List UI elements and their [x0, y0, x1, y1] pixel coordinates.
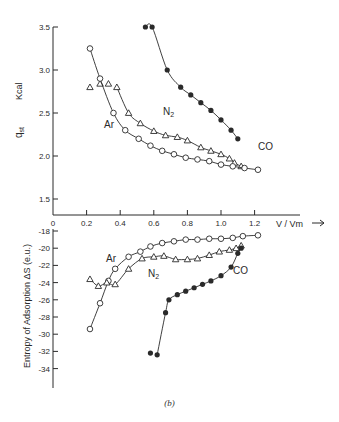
upper-plot: 1.52.02.53.03.500.20.40.60.81.01.2V / Vm… — [13, 23, 324, 229]
series-label-n2: N2 — [148, 268, 159, 280]
open-circle-marker — [206, 158, 212, 164]
arrow-right-icon — [312, 220, 324, 226]
open-circle-marker — [183, 155, 189, 161]
x-tick-label: 0.2 — [81, 219, 93, 228]
y-axis-label: Entropy of Adsorption ΔS (e.u.) — [22, 244, 32, 368]
open-circle-marker — [87, 46, 93, 52]
open-circle-marker — [111, 110, 117, 116]
filled-circle-marker — [228, 128, 233, 133]
open-circle-marker — [97, 76, 103, 82]
triangle-marker — [198, 144, 204, 150]
filled-circle-marker — [200, 282, 205, 287]
y-tick-label: 1.5 — [39, 195, 51, 204]
open-circle-marker — [255, 233, 261, 239]
open-circle-marker — [218, 162, 224, 168]
open-circle-marker — [206, 236, 212, 242]
filled-circle-marker — [183, 289, 188, 294]
triangle-marker — [105, 81, 111, 87]
triangle-marker — [114, 84, 120, 90]
y-tick-label: 3.0 — [39, 66, 51, 75]
y-tick-label: -28 — [38, 313, 50, 322]
x-tick-label: 0.6 — [148, 219, 160, 228]
open-circle-marker — [230, 164, 236, 170]
triangle-marker — [151, 128, 157, 134]
filled-circle-marker — [165, 67, 170, 72]
y-tick-label: 2.0 — [39, 152, 51, 161]
filled-circle-marker — [218, 273, 223, 278]
open-circle-marker — [148, 143, 154, 149]
filled-circle-marker — [198, 100, 203, 105]
filled-circle-marker — [166, 297, 171, 302]
open-circle-marker — [159, 148, 165, 154]
open-circle-marker — [87, 326, 93, 332]
triangle-marker — [184, 137, 190, 143]
y-tick-label: -24 — [38, 279, 50, 288]
open-circle-marker — [148, 244, 154, 250]
y-tick-label: -20 — [38, 244, 50, 253]
filled-circle-marker — [192, 285, 197, 290]
open-circle-marker — [97, 300, 103, 306]
x-tick-label: 0.4 — [115, 219, 127, 228]
open-circle-marker — [240, 233, 246, 239]
open-circle-marker — [112, 266, 118, 272]
y-tick-label: -34 — [38, 365, 50, 374]
open-circle-marker — [138, 249, 144, 255]
filled-circle-marker — [208, 278, 213, 283]
open-circle-marker — [122, 127, 128, 133]
figure: 1.52.02.53.03.500.20.40.60.81.01.2V / Vm… — [0, 0, 339, 422]
y-axis-unit: Kcal — [14, 82, 24, 100]
series-label-ar: Ar — [104, 119, 115, 130]
y-tick-label: 2.5 — [39, 109, 51, 118]
filled-circle-marker — [175, 292, 180, 297]
filled-circle-marker — [239, 246, 244, 251]
x-tick-label: 0 — [51, 219, 56, 228]
x-tick-label: 1.0 — [215, 219, 227, 228]
filled-circle-marker — [218, 117, 223, 122]
open-circle-marker — [242, 165, 248, 171]
y-tick-label: -22 — [38, 261, 50, 270]
y-tick-label: -32 — [38, 347, 50, 356]
x-tick-label: 0.8 — [182, 219, 194, 228]
y-tick-label: -18 — [38, 227, 50, 236]
triangle-marker — [137, 120, 143, 126]
filled-circle-marker — [235, 251, 240, 256]
filled-circle-marker — [235, 136, 240, 141]
open-circle-marker — [159, 240, 165, 246]
open-circle-marker — [171, 239, 177, 245]
y-axis-label: qst — [13, 127, 25, 138]
open-circle-marker — [136, 136, 142, 142]
series-label-ar: Ar — [106, 253, 117, 264]
figure-caption: (b) — [0, 398, 339, 408]
series-label-co: CO — [233, 265, 248, 276]
open-circle-marker — [126, 254, 132, 260]
series-label-co: CO — [258, 141, 273, 152]
filled-circle-marker — [178, 85, 183, 90]
triangle-marker — [87, 84, 93, 90]
filled-circle-marker — [150, 24, 155, 29]
y-tick-label: -26 — [38, 296, 50, 305]
x-tick-label: 1.2 — [249, 219, 261, 228]
open-circle-marker — [230, 235, 236, 241]
open-circle-marker — [255, 167, 261, 173]
open-circle-marker — [195, 237, 201, 243]
x-axis-label: V / Vm — [276, 219, 303, 229]
filled-circle-marker — [143, 24, 148, 29]
series-label-n2: N2 — [163, 106, 174, 118]
curve-co — [145, 24, 237, 139]
triangle-marker — [125, 110, 131, 116]
open-circle-marker — [195, 157, 201, 163]
y-tick-label: -30 — [38, 330, 50, 339]
filled-circle-marker — [208, 108, 213, 113]
filled-circle-marker — [155, 352, 160, 357]
open-circle-marker — [171, 151, 177, 157]
filled-circle-marker — [148, 351, 153, 356]
triangle-marker — [87, 276, 93, 282]
lower-plot: -18-20-22-24-26-28-30-32-34Entropy of Ad… — [22, 227, 261, 388]
y-tick-label: 3.5 — [39, 23, 51, 32]
filled-circle-marker — [188, 92, 193, 97]
filled-circle-marker — [163, 310, 168, 315]
triangle-marker — [226, 155, 232, 161]
open-circle-marker — [218, 236, 224, 242]
open-circle-marker — [183, 237, 189, 243]
